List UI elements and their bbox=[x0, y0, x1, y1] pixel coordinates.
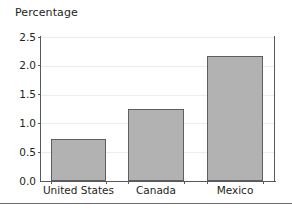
chart-title: Percentage bbox=[15, 6, 78, 19]
bar-united-states bbox=[51, 139, 106, 181]
footer-divider bbox=[0, 203, 292, 204]
y-axis-line bbox=[40, 36, 41, 182]
right-axis-line bbox=[274, 36, 275, 182]
bar-mexico bbox=[207, 56, 263, 181]
y-axis-tick-label: 2.0 bbox=[0, 60, 36, 71]
bar-canada bbox=[128, 109, 184, 181]
y-axis-tick-label: 1.5 bbox=[0, 89, 36, 100]
x-axis-label-united-states: United States bbox=[42, 184, 115, 196]
y-axis-tick-label: 0.0 bbox=[0, 176, 36, 187]
gridline-2-5 bbox=[41, 37, 275, 38]
y-axis-tick-label: 0.5 bbox=[0, 147, 36, 158]
x-axis-label-canada: Canada bbox=[126, 184, 186, 196]
x-axis-label-mexico: Mexico bbox=[205, 184, 265, 196]
y-axis-tick-label: 1.0 bbox=[0, 118, 36, 129]
x-axis-line bbox=[40, 181, 276, 183]
y-axis-tick-label: 2.5 bbox=[0, 32, 36, 43]
bar-chart-figure: Percentage 2.5 2.0 1.5 1.0 0.5 0.0 Uni bbox=[0, 0, 292, 216]
